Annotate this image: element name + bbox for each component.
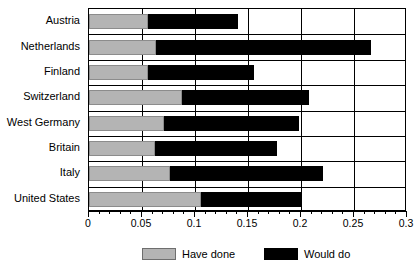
legend-gray-swatch: [142, 248, 176, 260]
bar-segment-would-do: [201, 192, 301, 207]
bar-segment-would-do: [170, 166, 323, 181]
x-tick-minor: [311, 211, 312, 214]
bar-group: [89, 141, 407, 156]
plot-area: [88, 8, 406, 211]
x-tick-minor: [332, 211, 333, 214]
bar-group: [89, 166, 407, 181]
category-label: United States: [14, 193, 80, 204]
x-tick-minor: [385, 211, 386, 214]
x-tick-minor: [236, 211, 237, 214]
x-tick-minor: [342, 211, 343, 214]
bar-segment-would-do: [148, 65, 254, 80]
bar-segment-would-do: [182, 90, 309, 105]
chart-legend: Have doneWould do: [0, 246, 418, 266]
x-tick-label: 0.2: [280, 218, 320, 229]
x-tick-minor: [130, 211, 131, 214]
bar-segment-have-done: [89, 141, 155, 156]
bar-chart: AustriaNetherlandsFinlandSwitzerlandWest…: [0, 0, 418, 273]
category-label: West Germany: [7, 117, 80, 128]
bar-segment-have-done: [89, 14, 148, 29]
bar-segment-have-done: [89, 192, 201, 207]
x-tick-minor: [226, 211, 227, 214]
row-separator: [89, 34, 405, 35]
bar-segment-would-do: [148, 14, 238, 29]
legend-label: Have done: [182, 248, 235, 261]
bar-group: [89, 192, 407, 207]
x-tick-minor: [395, 211, 396, 214]
bar-segment-would-do: [156, 40, 371, 55]
row-separator: [89, 187, 405, 188]
bar-segment-have-done: [89, 166, 170, 181]
category-label: Austria: [46, 15, 80, 26]
category-label: Britain: [49, 142, 80, 153]
bar-group: [89, 116, 407, 131]
x-tick-minor: [289, 211, 290, 214]
x-tick-label: 0.15: [227, 218, 267, 229]
x-tick-minor: [152, 211, 153, 214]
x-tick-minor: [268, 211, 269, 214]
bar-segment-have-done: [89, 90, 182, 105]
x-tick-minor: [173, 211, 174, 214]
x-tick-label: 0.1: [174, 218, 214, 229]
x-tick-minor: [162, 211, 163, 214]
bar-group: [89, 40, 407, 55]
x-tick-minor: [258, 211, 259, 214]
category-axis-labels: AustriaNetherlandsFinlandSwitzerlandWest…: [0, 8, 84, 211]
bar-segment-have-done: [89, 65, 148, 80]
category-label: Finland: [44, 66, 80, 77]
x-tick-label: 0.25: [333, 218, 373, 229]
bar-group: [89, 90, 407, 105]
bar-segment-have-done: [89, 116, 164, 131]
legend-label: Would do: [304, 248, 350, 261]
x-tick-minor: [120, 211, 121, 214]
row-separator: [89, 136, 405, 137]
legend-black-swatch: [264, 248, 298, 260]
category-label: Italy: [60, 167, 80, 178]
bar-segment-have-done: [89, 40, 156, 55]
x-tick-minor: [205, 211, 206, 214]
x-tick-label: 0: [68, 218, 108, 229]
x-tick-label: 0.3: [386, 218, 418, 229]
bar-group: [89, 65, 407, 80]
x-tick-minor: [99, 211, 100, 214]
x-tick-minor: [109, 211, 110, 214]
x-tick-minor: [279, 211, 280, 214]
x-tick-minor: [321, 211, 322, 214]
category-label: Netherlands: [21, 41, 80, 52]
bar-group: [89, 14, 407, 29]
row-separator: [89, 111, 405, 112]
category-label: Switzerland: [23, 91, 80, 102]
bar-segment-would-do: [164, 116, 299, 131]
bar-segment-would-do: [155, 141, 277, 156]
x-tick-minor: [215, 211, 216, 214]
x-tick-minor: [364, 211, 365, 214]
x-tick-minor: [183, 211, 184, 214]
row-separator: [89, 60, 405, 61]
row-separator: [89, 85, 405, 86]
x-tick-minor: [374, 211, 375, 214]
x-tick-label: 0.05: [121, 218, 161, 229]
row-separator: [89, 161, 405, 162]
